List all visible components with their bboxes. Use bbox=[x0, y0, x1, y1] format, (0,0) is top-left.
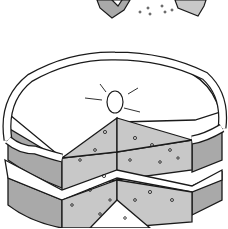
cake-slice bbox=[97, 0, 206, 18]
cake-body bbox=[5, 59, 222, 229]
cake-illustration bbox=[0, 0, 228, 228]
